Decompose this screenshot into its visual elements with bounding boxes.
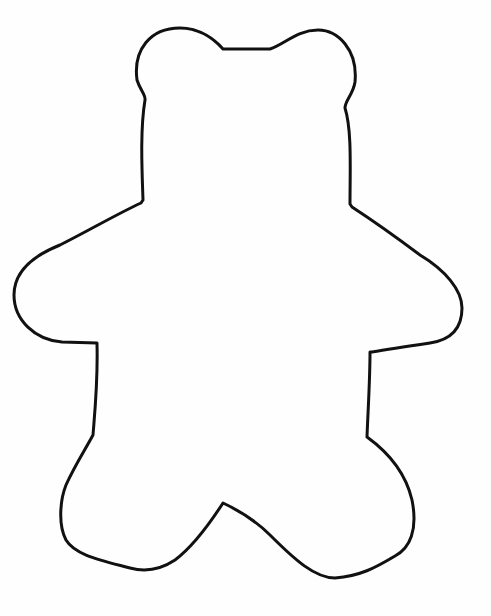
teddy-bear-outline xyxy=(0,0,491,616)
bear-body-outline xyxy=(14,28,462,578)
drawing-canvas xyxy=(0,0,491,616)
